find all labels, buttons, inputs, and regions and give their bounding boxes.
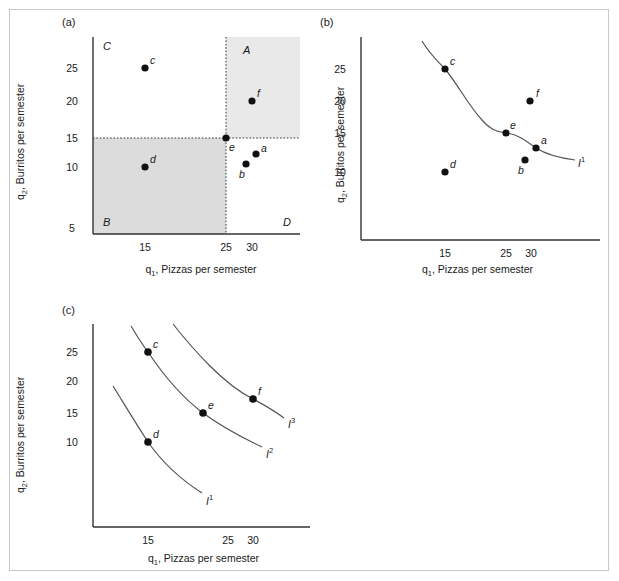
point-d <box>441 168 448 175</box>
panel-a-y-axis-title: q2, Burritos per semester <box>14 84 29 200</box>
x-axis-rest: , Pizzas per semester <box>158 552 259 564</box>
panel-c-ytick-20: 20 <box>58 375 86 387</box>
panel-b-xtick-30: 30 <box>519 247 543 259</box>
y-axis-sub: 2 <box>20 483 29 487</box>
region-a-shade <box>226 37 300 138</box>
point-label-c: c <box>150 54 155 66</box>
panel-c-xtick-25: 25 <box>216 534 240 546</box>
panel-a-xtick-30: 30 <box>240 241 264 253</box>
panel-a-ytick-10: 10 <box>58 161 86 173</box>
panel-a-ytick-5: 5 <box>58 222 86 234</box>
y-axis-sub: 2 <box>20 190 29 194</box>
point-label-e: e <box>229 141 235 153</box>
curve-label-I1: I1 <box>578 155 585 169</box>
panel-a-x-axis-title: q1, Pizzas per semester <box>96 263 306 278</box>
panel-a-ytick-20: 20 <box>58 95 86 107</box>
panel-c-xtick-15: 15 <box>136 534 160 546</box>
panel-b-ytick-25: 25 <box>326 63 354 75</box>
point-label-f: f <box>257 87 260 99</box>
region-label-b: B <box>103 216 110 228</box>
point-a <box>532 144 539 151</box>
y-axis-rest: , Burritos per semester <box>14 377 26 483</box>
panel-c-x-axis-title: q1, Pizzas per semester <box>96 552 311 567</box>
point-label-d: d <box>153 428 159 440</box>
panel-b-ytick-20: 20 <box>326 95 354 107</box>
curve-label-I1-sup: 1 <box>581 155 585 164</box>
curve-I1 <box>422 41 575 160</box>
panel-a-xtick-25: 25 <box>214 241 238 253</box>
panel-b-x-axis-title: q1, Pizzas per semester <box>360 263 595 278</box>
region-label-c: C <box>103 40 111 52</box>
panel-b-plot <box>310 0 619 290</box>
y-axis-q: q <box>14 487 26 493</box>
region-label-d: D <box>283 216 291 228</box>
panel-c-plot <box>0 290 340 581</box>
curve-label-I1: I1 <box>206 493 213 507</box>
point-label-d: d <box>150 153 156 165</box>
x-axis-rest: , Pizzas per semester <box>432 263 533 275</box>
panel-a-xtick-15: 15 <box>133 241 157 253</box>
region-label-a: A <box>243 44 250 56</box>
panel-c-ytick-15: 15 <box>58 407 86 419</box>
point-e <box>502 129 509 136</box>
panel-b: (b) q2, Burritos per semester q1, Pizzas… <box>310 0 619 290</box>
point-label-f: f <box>258 385 261 397</box>
panel-b-xtick-25: 25 <box>494 247 518 259</box>
point-label-a: a <box>261 142 267 154</box>
point-f <box>248 97 255 104</box>
point-c <box>144 348 152 356</box>
curve-label-I1-sup: 1 <box>209 493 213 502</box>
point-d <box>144 438 152 446</box>
point-b <box>242 160 249 167</box>
point-label-b: b <box>239 168 245 180</box>
panel-c-ytick-25: 25 <box>58 346 86 358</box>
point-b <box>521 156 528 163</box>
panel-c-ytick-10: 10 <box>58 436 86 448</box>
y-axis-q: q <box>14 194 26 200</box>
point-c <box>441 65 448 72</box>
panel-c: (c) q2, Burritos per semester q1, Pizzas… <box>0 290 340 581</box>
panel-b-xtick-15: 15 <box>433 247 457 259</box>
x-axis-rest: , Pizzas per semester <box>156 263 257 275</box>
point-label-b: b <box>518 164 524 176</box>
curve-I2 <box>131 326 262 447</box>
curve-label-I3-sup: 3 <box>291 416 295 425</box>
point-a <box>252 150 259 157</box>
curve-I3 <box>173 324 284 418</box>
y-axis-sub: 2 <box>340 193 349 197</box>
point-label-e: e <box>208 399 214 411</box>
curve-label-I2-sup: 2 <box>269 446 273 455</box>
point-e <box>199 409 207 417</box>
region-b-shade <box>93 138 226 234</box>
panel-b-ytick-15: 15 <box>326 127 354 139</box>
point-d <box>141 163 148 170</box>
point-label-a: a <box>541 134 547 146</box>
curve-label-I3: I3 <box>288 416 295 430</box>
panel-a: (a) q2, Burritos per semester <box>0 0 310 290</box>
point-label-e: e <box>510 119 516 131</box>
panel-c-xtick-30: 30 <box>241 534 265 546</box>
point-f <box>249 395 257 403</box>
y-axis-rest: , Burritos per semester <box>14 84 26 190</box>
y-axis-q: q <box>334 197 346 203</box>
point-label-d: d <box>450 158 456 170</box>
point-label-f: f <box>536 87 539 99</box>
panel-c-y-axis-title: q2, Burritos per semester <box>14 377 29 493</box>
point-c <box>141 64 148 71</box>
point-f <box>526 97 533 104</box>
figure-root: (a) q2, Burritos per semester <box>0 0 619 581</box>
curve-label-I2: I2 <box>266 446 273 460</box>
point-label-c: c <box>153 338 158 350</box>
panel-b-ytick-10: 10 <box>326 166 354 178</box>
panel-a-ytick-15: 15 <box>58 132 86 144</box>
panel-a-ytick-25: 25 <box>58 62 86 74</box>
point-label-c: c <box>450 55 455 67</box>
